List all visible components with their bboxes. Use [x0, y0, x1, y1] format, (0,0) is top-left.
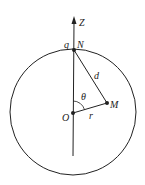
- point-n: [72, 48, 76, 52]
- distance-line-d: [74, 50, 107, 103]
- point-m: [105, 101, 109, 105]
- angle-arc-theta: [73, 101, 85, 110]
- label-o: O: [62, 112, 69, 123]
- z-axis-line: [73, 22, 74, 156]
- label-z: Z: [79, 17, 85, 28]
- label-m: M: [109, 99, 119, 110]
- label-theta: θ: [81, 91, 86, 102]
- label-n: N: [76, 39, 85, 50]
- label-r: r: [89, 110, 93, 121]
- point-o: [71, 111, 75, 115]
- label-d: d: [94, 70, 100, 81]
- label-q: q: [64, 39, 69, 50]
- z-axis-arrow-icon: [72, 16, 77, 24]
- sphere-diagram: Z q N d θ M O r: [0, 0, 145, 185]
